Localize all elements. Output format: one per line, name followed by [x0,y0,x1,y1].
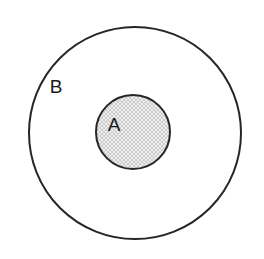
euler-diagram-canvas: B A [0,0,264,259]
set-b-label: B [50,76,63,97]
set-a-label: A [108,114,121,135]
euler-diagram-svg: B A [0,0,264,259]
